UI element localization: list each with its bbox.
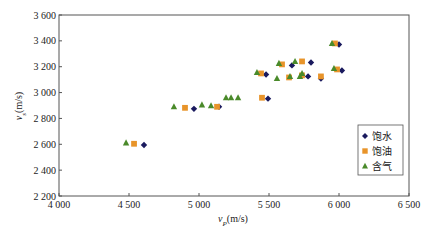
x-tick-label: 6 500 (398, 199, 421, 210)
legend-label: 饱油 (372, 145, 392, 157)
legend: 饱水饱油含气 (358, 125, 403, 175)
square-marker (259, 95, 265, 101)
legend-label: 含气 (372, 160, 392, 172)
x-tick-label: 5 000 (188, 199, 211, 210)
scatter-chart: 4 0004 5005 0005 5006 0006 500 2 2002 40… (0, 0, 430, 238)
plot-area (59, 15, 409, 196)
y-tick-label: 2 600 (34, 139, 57, 150)
y-tick-label: 2 400 (34, 165, 57, 176)
y-tick-label: 3 200 (34, 61, 57, 72)
x-tick-label: 4 500 (118, 199, 141, 210)
x-axis-label: vP(m/s) (218, 213, 248, 228)
y-tick-label: 3 600 (34, 10, 57, 21)
y-tick-label: 3 000 (34, 87, 57, 98)
square-icon (362, 148, 367, 153)
y-axis-label: vs(m/s) (13, 92, 28, 120)
y-tick-label: 2 800 (34, 113, 57, 124)
legend-label: 饱水 (372, 131, 392, 142)
square-marker (214, 104, 220, 110)
y-tick-label: 3 400 (34, 35, 57, 46)
x-tick-label: 5 500 (258, 199, 281, 210)
y-tick-label: 2 200 (34, 191, 57, 202)
x-tick-label: 6 000 (328, 199, 351, 210)
square-marker (318, 74, 324, 80)
square-marker (131, 141, 137, 147)
square-marker (299, 59, 305, 65)
square-marker (182, 105, 188, 111)
y-axis: 2 2002 4002 6002 8003 0003 2003 4003 600 (34, 10, 63, 202)
